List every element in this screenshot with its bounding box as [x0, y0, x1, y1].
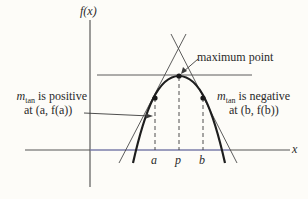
left-annotation-text: is positive — [35, 89, 87, 103]
diagram-canvas: f(x) x maximum point mtan is positive at… — [0, 0, 308, 199]
m-symbol: m — [217, 89, 226, 103]
arrowhead-icon — [181, 67, 187, 74]
point-a — [152, 95, 157, 100]
point-max — [176, 73, 181, 78]
y-axis-label: f(x) — [80, 5, 97, 17]
maximum-point-label: maximum point — [197, 51, 273, 63]
right-annotation-line2: at (b, f(b)) — [229, 104, 279, 116]
x-axis-label: x — [292, 143, 297, 155]
right-annotation-text: is negative — [235, 89, 290, 103]
arrow-to-point-a — [84, 113, 150, 116]
point-b — [200, 95, 205, 100]
m-symbol: m — [17, 89, 26, 103]
tick-label-p: p — [175, 154, 181, 166]
tick-label-b: b — [199, 154, 205, 166]
tick-label-a: a — [151, 154, 157, 166]
arrowhead-icon — [146, 114, 153, 119]
left-annotation-line2: at (a, f(a)) — [24, 104, 72, 116]
